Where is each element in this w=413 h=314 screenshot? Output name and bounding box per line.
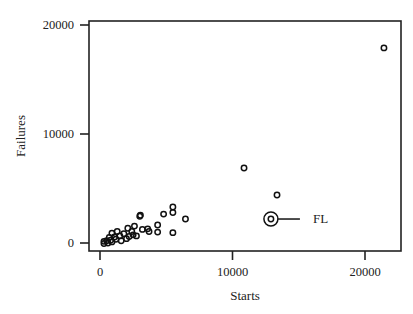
point-label-fl: FL: [313, 211, 328, 226]
data-point: [132, 223, 137, 228]
y-tick-label: 10000: [43, 127, 74, 141]
x-tick-label: 20000: [349, 265, 380, 279]
y-axis: 01000020000: [43, 18, 89, 250]
highlight-ring: [264, 212, 278, 226]
data-point: [155, 229, 160, 234]
y-tick-label: 0: [68, 236, 74, 250]
data-point: [268, 216, 273, 221]
data-point: [274, 192, 279, 197]
data-points: [101, 45, 386, 246]
data-point: [241, 165, 246, 170]
y-tick-label: 20000: [43, 18, 74, 32]
x-tick-label: 10000: [217, 265, 248, 279]
x-axis: 01000020000: [97, 251, 381, 279]
data-point: [183, 216, 188, 221]
data-point: [170, 204, 175, 209]
plot-frame: [89, 21, 401, 251]
data-point: [140, 227, 145, 232]
x-axis-label: Starts: [230, 288, 260, 303]
data-point: [161, 211, 166, 216]
data-point: [170, 210, 175, 215]
data-point: [170, 230, 175, 235]
y-axis-label: Failures: [13, 115, 28, 157]
data-point: [155, 222, 160, 227]
scatter-chart: 01000020000 01000020000 Starts Failures …: [0, 0, 413, 314]
x-tick-label: 0: [97, 265, 103, 279]
data-point: [381, 45, 386, 50]
